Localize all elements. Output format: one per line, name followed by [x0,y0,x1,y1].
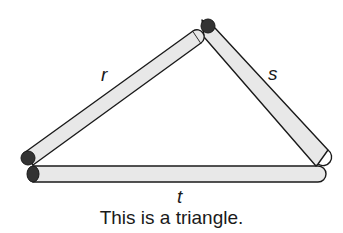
label-t: t [177,186,182,208]
label-s: s [268,63,278,85]
label-r: r [101,64,107,86]
stick-r [21,30,204,165]
triangle-diagram [0,0,343,233]
caption: This is a triangle. [0,207,343,229]
stick-s [201,19,332,166]
stick-t [27,166,326,182]
